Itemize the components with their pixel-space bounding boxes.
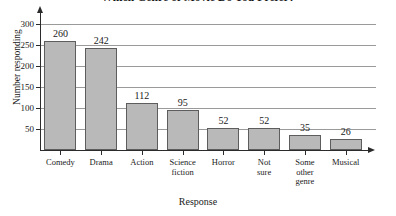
category-label-line: Some	[295, 157, 314, 167]
y-axis-tick	[36, 87, 41, 88]
category-label-line: other	[296, 167, 313, 177]
category-label-line: Drama	[90, 157, 113, 167]
bar-value-label: 95	[163, 98, 203, 108]
x-axis-tick	[60, 151, 61, 155]
category-label-line: Comedy	[46, 157, 75, 167]
bar-value-label: 112	[122, 91, 162, 101]
category-label-line: Horror	[212, 157, 235, 167]
y-axis-tick	[36, 129, 41, 130]
bar-chart: Which Genre of Movie Do You Prefer? Numb…	[0, 0, 396, 216]
y-axis-tick	[36, 66, 41, 67]
chart-title: Which Genre of Movie Do You Prefer?	[0, 0, 396, 3]
bar	[248, 128, 280, 150]
category-label-line: Musical	[332, 157, 359, 167]
y-axis-tick-label: 150	[2, 83, 34, 92]
gridline	[40, 24, 376, 25]
bar-value-label: 260	[40, 29, 80, 39]
category-label-line: sure	[257, 167, 271, 177]
y-axis-tick-label: 100	[2, 104, 34, 113]
bar-value-label: 35	[285, 123, 325, 133]
x-axis-tick	[142, 151, 143, 155]
bar-value-label: 26	[326, 127, 366, 137]
y-axis-tick-label: 50	[2, 125, 34, 134]
x-axis-tick	[223, 151, 224, 155]
bar	[207, 128, 239, 150]
category-label-line: Not	[258, 157, 271, 167]
category-label-line: Action	[130, 157, 153, 167]
bar	[85, 48, 117, 150]
bar	[330, 139, 362, 150]
category-label: Musical	[322, 158, 370, 168]
bar	[289, 135, 321, 150]
y-axis-tick	[36, 108, 41, 109]
y-axis-tick	[36, 45, 41, 46]
bar-value-label: 52	[244, 116, 284, 126]
x-axis-title: Response	[0, 196, 396, 207]
x-axis-line	[40, 150, 369, 151]
x-axis-tick	[346, 151, 347, 155]
bar	[167, 110, 199, 150]
x-axis-tick	[183, 151, 184, 155]
category-label-line: Science	[169, 157, 195, 167]
category-label-line: genre	[295, 176, 314, 186]
category-label-line: fiction	[172, 167, 194, 177]
y-axis-arrow-icon	[37, 6, 43, 13]
x-axis-tick	[305, 151, 306, 155]
y-axis-tick	[36, 24, 41, 25]
bar-value-label: 242	[81, 36, 121, 46]
y-axis-tick-label: 300	[2, 20, 34, 29]
bar	[44, 41, 76, 150]
bar	[126, 103, 158, 150]
y-axis-tick-label: 200	[2, 62, 34, 71]
bar-value-label: 52	[203, 116, 243, 126]
x-axis-tick	[101, 151, 102, 155]
y-axis-tick-label: 250	[2, 41, 34, 50]
x-axis-tick	[264, 151, 265, 155]
